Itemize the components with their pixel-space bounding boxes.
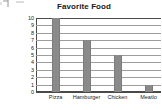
y-axis-tick-3: 3	[20, 67, 34, 73]
y-axis-tick-6: 6	[20, 45, 34, 51]
chart-title: Favorite Food	[24, 2, 144, 11]
y-axis-tick-10: 10	[20, 15, 34, 21]
bar-meatlo	[145, 85, 153, 92]
x-axis-category-labels: PizzaHamburgerChickenMeatlo	[36, 94, 161, 104]
y-axis-tick-9: 9	[20, 22, 34, 28]
y-axis-tick-2: 2	[20, 74, 34, 80]
y-axis-tick-8: 8	[20, 30, 34, 36]
plot-area	[36, 18, 161, 92]
x-axis-label-meatlo: Meatlo	[129, 94, 162, 101]
y-axis-tick-1: 1	[20, 82, 34, 88]
bar-hamburger	[83, 40, 91, 92]
y-axis-tick-5: 5	[20, 52, 34, 58]
bar-chicken	[114, 55, 122, 92]
gridline-0	[36, 92, 161, 93]
y-axis-tick-7: 7	[20, 37, 34, 43]
bar-pizza	[52, 18, 60, 92]
favorite-food-bar-chart: Favorite Food 109876543210 PizzaHamburge…	[0, 0, 161, 110]
y-axis-tick-4: 4	[20, 59, 34, 65]
y-axis-tick-0: 0	[20, 89, 34, 95]
y-axis-tick-labels: 109876543210	[20, 14, 34, 96]
